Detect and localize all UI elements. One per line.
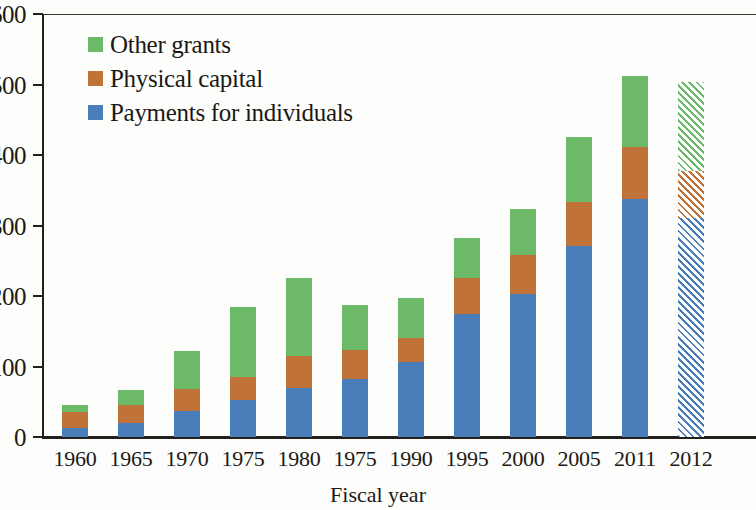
- bar-segment-green: [62, 405, 88, 412]
- legend-swatch-icon: [88, 105, 103, 120]
- bar-segment-blue: [454, 314, 480, 437]
- bar-segment-orange: [398, 338, 424, 361]
- bar-2000: [510, 209, 536, 437]
- bar-segment-orange: [566, 202, 592, 246]
- bar-segment-green: [622, 76, 648, 147]
- bar-segment-green: [174, 351, 200, 389]
- bar-1960: [62, 405, 88, 437]
- bar-segment-blue: [118, 423, 144, 437]
- bar-segment-green: [398, 298, 424, 338]
- bar-2011: [622, 76, 648, 437]
- legend-label: Other grants: [110, 32, 231, 57]
- bar-2005: [566, 137, 592, 437]
- bar-segment-blue: [398, 362, 424, 437]
- bar-segment-green: [230, 307, 256, 378]
- bar-segment-orange: [230, 377, 256, 400]
- bar-segment-orange: [678, 171, 704, 219]
- legend-swatch-icon: [88, 37, 103, 52]
- bar-segment-orange: [286, 356, 312, 388]
- bar-segment-green: [342, 305, 368, 351]
- bar-1980: [286, 278, 312, 437]
- bar-segment-orange: [174, 389, 200, 411]
- chart-legend: Other grantsPhysical capitalPayments for…: [88, 27, 353, 129]
- legend-label: Physical capital: [110, 66, 263, 91]
- legend-item: Payments for individuals: [88, 95, 353, 129]
- bar-segment-blue: [622, 199, 648, 437]
- bar-segment-blue: [230, 400, 256, 437]
- legend-swatch-icon: [88, 71, 103, 86]
- bar-segment-blue: [62, 428, 88, 437]
- bar-segment-orange: [62, 412, 88, 428]
- bar-1990: [398, 298, 424, 437]
- bar-segment-green: [454, 238, 480, 278]
- bar-segment-orange: [510, 255, 536, 294]
- bar-segment-orange: [622, 147, 648, 200]
- bar-1970: [174, 351, 200, 437]
- legend-item: Physical capital: [88, 61, 353, 95]
- bar-2012: [678, 82, 704, 437]
- bar-segment-blue: [174, 411, 200, 437]
- bar-segment-blue: [678, 218, 704, 437]
- bar-segment-orange: [118, 405, 144, 423]
- bar-1975: [230, 307, 256, 437]
- bar-segment-green: [286, 278, 312, 356]
- bar-1965: [118, 390, 144, 437]
- x-axis-title: Fiscal year: [0, 482, 756, 508]
- x-axis-tick-label: 2012: [651, 448, 731, 470]
- legend-item: Other grants: [88, 27, 353, 61]
- bar-1995: [454, 238, 480, 437]
- bar-1975-b: [342, 305, 368, 438]
- bar-segment-green: [678, 82, 704, 170]
- bar-segment-blue: [286, 388, 312, 437]
- bar-segment-green: [118, 390, 144, 404]
- stacked-bar-chart: 0100200300400500600 19601965197019751980…: [0, 0, 756, 510]
- bar-segment-orange: [454, 278, 480, 313]
- bar-segment-blue: [342, 379, 368, 438]
- bar-segment-blue: [566, 246, 592, 437]
- bar-segment-green: [566, 137, 592, 202]
- bar-segment-green: [510, 209, 536, 256]
- bar-segment-orange: [342, 350, 368, 378]
- legend-label: Payments for individuals: [110, 100, 353, 125]
- bar-segment-blue: [510, 294, 536, 437]
